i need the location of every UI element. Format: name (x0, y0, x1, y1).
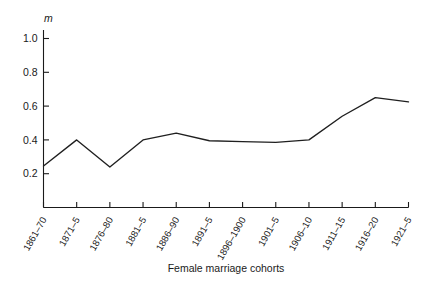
x-tick-label: 1886–90 (153, 215, 181, 253)
chart-figure: m 0.20.40.60.81.0 1861–701871–51876–8018… (0, 0, 432, 281)
x-tick-label: 1876–80 (87, 215, 115, 253)
x-tick-label: 1921–5 (388, 215, 413, 248)
y-tick-label: 0.6 (23, 100, 38, 112)
series-line-m (44, 98, 409, 167)
x-tick-label: 1871–5 (57, 215, 82, 248)
line-chart: m 0.20.40.60.81.0 1861–701871–51876–8018… (0, 0, 432, 281)
y-tick-label: 0.4 (23, 134, 38, 146)
x-tick-label: 1891–5 (189, 215, 214, 248)
x-tick-label: 1916–20 (353, 215, 381, 253)
y-axis-label: m (44, 12, 53, 24)
y-axis-ticks: 0.20.40.60.81.0 (23, 32, 49, 179)
y-tick-label: 1.0 (23, 32, 38, 44)
x-axis-title: Female marriage cohorts (168, 262, 285, 274)
x-axis-tick-labels: 1861–701871–51876–801881–51886–901891–51… (21, 215, 414, 262)
x-tick-label: 1896–1900 (215, 215, 248, 262)
x-tick-label: 1901–5 (256, 215, 281, 248)
x-axis-ticks (44, 202, 409, 208)
x-tick-label: 1881–5 (123, 215, 148, 248)
x-tick-label: 1906–10 (286, 215, 314, 253)
y-tick-label: 0.8 (23, 66, 38, 78)
x-tick-label: 1861–70 (21, 215, 49, 253)
x-tick-label: 1911–15 (320, 215, 348, 252)
y-tick-label: 0.2 (23, 167, 38, 179)
